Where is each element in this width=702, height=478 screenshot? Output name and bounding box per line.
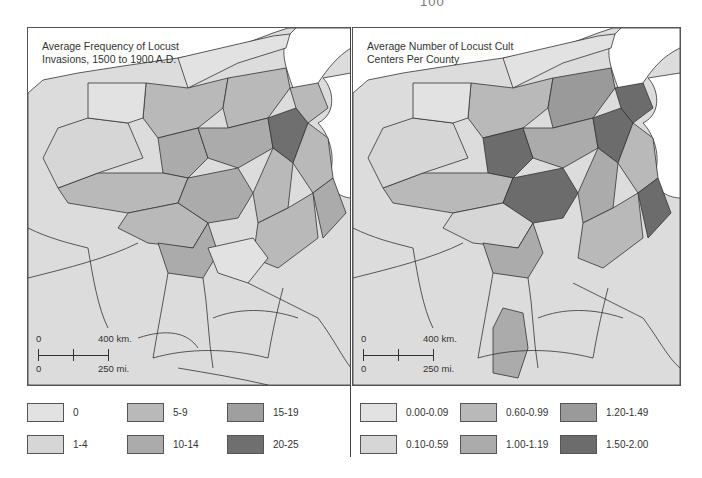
legend-label: 1.00-1.19 — [506, 439, 548, 450]
legend-label: 10-14 — [173, 439, 199, 450]
legend-item: 0 — [27, 402, 127, 422]
legend-swatch — [27, 403, 64, 422]
legend-label: 0.10-0.59 — [406, 439, 448, 450]
legend-swatch — [127, 435, 164, 454]
map-locust-invasions: Average Frequency of Locust Invasions, 1… — [27, 27, 351, 386]
map-locust-cult-centers-svg — [353, 28, 680, 385]
legend-item: 20-25 — [227, 434, 327, 454]
map-locust-cult-centers: Average Number of Locust Cult Centers Pe… — [352, 27, 681, 386]
legend-item: 0.00-0.09 — [360, 402, 460, 422]
legend-locust-invasions: 0 5-9 15-19 1-4 10-14 20-25 — [27, 402, 327, 454]
legend-item: 1.00-1.19 — [460, 434, 560, 454]
map-title: Average Frequency of Locust Invasions, 1… — [42, 40, 262, 66]
map-title: Average Number of Locust Cult Centers Pe… — [367, 40, 587, 66]
scale-mi-zero: 0 — [36, 363, 41, 374]
map-title-line-2: Centers Per County — [367, 53, 587, 66]
legend-item: 15-19 — [227, 402, 327, 422]
legend-swatch — [360, 435, 397, 454]
legend-swatch — [27, 435, 64, 454]
map-title-line-1: Average Frequency of Locust — [42, 40, 262, 53]
scale-mi-label: 250 mi. — [423, 363, 454, 374]
legend-swatch — [460, 435, 497, 454]
scale-mi-label: 250 mi. — [98, 363, 129, 374]
scale-km-zero: 0 — [36, 333, 41, 344]
legend-item: 1.20-1.49 — [560, 402, 660, 422]
map-title-line-2: Invasions, 1500 to 1900 A.D. — [42, 53, 262, 66]
scale-tick — [433, 349, 434, 361]
legend-label: 1.20-1.49 — [606, 407, 648, 418]
scale-tick — [73, 349, 74, 361]
legend-label: 5-9 — [173, 407, 187, 418]
scale-mi-zero: 0 — [361, 363, 366, 374]
panel-divider — [350, 27, 351, 457]
legend-label: 1-4 — [73, 439, 87, 450]
legend-label: 0.60-0.99 — [506, 407, 548, 418]
scale-km-label: 400 km. — [423, 333, 457, 344]
legend-label: 20-25 — [273, 439, 299, 450]
legend-swatch — [227, 435, 264, 454]
scale-tick — [38, 349, 39, 361]
scale-tick — [398, 349, 399, 361]
legend-item: 1-4 — [27, 434, 127, 454]
scale-tick — [363, 349, 364, 361]
page-number: 100 — [420, 0, 445, 9]
map-title-line-1: Average Number of Locust Cult — [367, 40, 587, 53]
legend-label: 0.00-0.09 — [406, 407, 448, 418]
legend-item: 1.50-2.00 — [560, 434, 660, 454]
legend-label: 1.50-2.00 — [606, 439, 648, 450]
scale-km-zero: 0 — [361, 333, 366, 344]
legend-swatch — [227, 403, 264, 422]
legend-item: 0.10-0.59 — [360, 434, 460, 454]
legend-swatch — [460, 403, 497, 422]
legend-item: 5-9 — [127, 402, 227, 422]
map-locust-invasions-svg — [28, 28, 351, 385]
legend-swatch — [560, 435, 597, 454]
legend-locust-cult-centers: 0.00-0.09 0.60-0.99 1.20-1.49 0.10-0.59 … — [360, 402, 660, 454]
legend-item: 10-14 — [127, 434, 227, 454]
legend-swatch — [127, 403, 164, 422]
legend-swatch — [360, 403, 397, 422]
legend-swatch — [560, 403, 597, 422]
scale-km-label: 400 km. — [98, 333, 132, 344]
legend-item: 0.60-0.99 — [460, 402, 560, 422]
legend-label: 15-19 — [273, 407, 299, 418]
scale-bar: 0 400 km. 0 250 mi. — [361, 333, 471, 381]
scale-bar: 0 400 km. 0 250 mi. — [36, 333, 146, 381]
scale-tick — [108, 349, 109, 361]
legend-label: 0 — [73, 407, 79, 418]
